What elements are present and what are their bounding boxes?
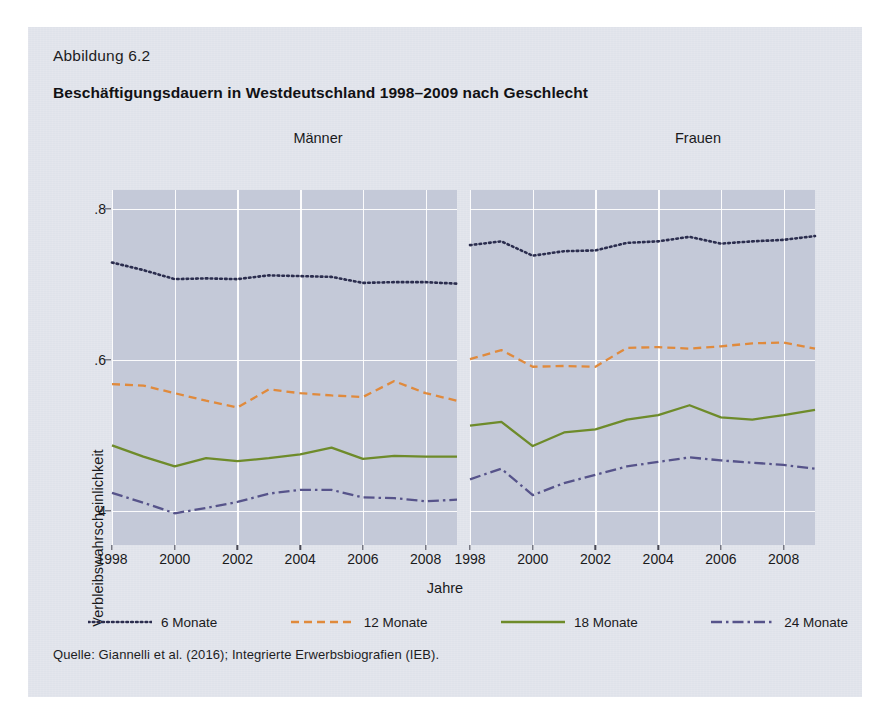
series-line-24-monate — [112, 490, 457, 513]
x-axis-tick-label: 2008 — [410, 551, 441, 567]
panel-title-frauen: Frauen — [598, 130, 798, 146]
series-line-18-monate — [470, 405, 815, 446]
figure-title: Beschäftigungsdauern in Westdeutschland … — [53, 84, 588, 102]
x-axis-tick-mark — [469, 545, 470, 550]
x-axis-tick-label: 2002 — [580, 551, 611, 567]
legend-swatch-solid — [501, 616, 565, 628]
x-axis-tick-mark — [783, 545, 784, 550]
y-axis-tick-label: .4 — [74, 503, 106, 519]
x-axis-tick-label: 2008 — [768, 551, 799, 567]
x-axis-tick-label: 2004 — [643, 551, 674, 567]
x-axis-tick-mark — [237, 545, 238, 550]
series-line-6-monate — [470, 236, 815, 256]
legend-item-24-monate[interactable]: 24 Monate — [711, 615, 848, 630]
x-axis-tick-label: 2002 — [222, 551, 253, 567]
series-lines-maenner — [112, 190, 457, 545]
x-axis-tick-mark — [174, 545, 175, 550]
x-axis-tick-label: 2006 — [705, 551, 736, 567]
y-axis-label: Verbleibswahrscheinlichkeit — [90, 328, 106, 725]
figure-number: Abbildung 6.2 — [53, 47, 150, 65]
legend-swatch-dashdot — [711, 616, 775, 628]
figure-container: Abbildung 6.2 Beschäftigungsdauern in We… — [28, 27, 862, 697]
series-line-24-monate — [470, 457, 815, 495]
x-axis-tick-label: 2000 — [159, 551, 190, 567]
x-axis-tick-label: 2006 — [347, 551, 378, 567]
x-axis-tick-mark — [111, 545, 112, 550]
x-axis-tick-label: 1998 — [454, 551, 485, 567]
legend-swatch-dotted — [88, 616, 152, 628]
series-line-6-monate — [112, 263, 457, 284]
series-line-18-monate — [112, 445, 457, 466]
x-axis-tick-mark — [532, 545, 533, 550]
legend-item-6-monate[interactable]: 6 Monate — [88, 615, 217, 630]
source-note: Quelle: Giannelli et al. (2016); Integri… — [53, 647, 439, 662]
y-axis-tick-label: .6 — [74, 352, 106, 368]
y-axis-tick-mark — [105, 359, 111, 360]
x-axis-tick-mark — [720, 545, 721, 550]
x-axis-tick-mark — [362, 545, 363, 550]
x-axis-tick-mark — [299, 545, 300, 550]
x-axis-tick-label: 1998 — [96, 551, 127, 567]
series-lines-frauen — [470, 190, 815, 545]
legend-item-18-monate[interactable]: 18 Monate — [501, 615, 638, 630]
series-line-12-monate — [470, 343, 815, 367]
panel-title-maenner: Männer — [218, 130, 418, 146]
y-axis: Verbleibswahrscheinlichkeit .4.6.8 — [74, 190, 110, 545]
plot-area-frauen — [470, 190, 815, 545]
plot-area-maenner — [112, 190, 457, 545]
y-axis-tick-label: .8 — [74, 201, 106, 217]
legend-item-12-monate[interactable]: 12 Monate — [291, 615, 428, 630]
x-axis-tick-label: 2000 — [517, 551, 548, 567]
x-axis-tick-label: 2004 — [285, 551, 316, 567]
legend-label: 24 Monate — [784, 615, 848, 630]
x-axis-tick-mark — [657, 545, 658, 550]
x-axis-tick-mark — [425, 545, 426, 550]
legend-label: 12 Monate — [364, 615, 428, 630]
legend-label: 18 Monate — [574, 615, 638, 630]
series-line-12-monate — [112, 381, 457, 407]
y-axis-tick-mark — [105, 208, 111, 209]
x-axis-maenner: 199820002002200420062008 — [112, 545, 457, 573]
legend-swatch-dashed — [291, 616, 355, 628]
y-axis-tick-mark — [105, 510, 111, 511]
legend-label: 6 Monate — [161, 615, 217, 630]
x-axis-label: Jahre — [28, 580, 862, 596]
x-axis-tick-mark — [595, 545, 596, 550]
legend: 6 Monate12 Monate18 Monate24 Monate — [88, 609, 848, 635]
x-axis-frauen: 199820002002200420062008 — [470, 545, 815, 573]
